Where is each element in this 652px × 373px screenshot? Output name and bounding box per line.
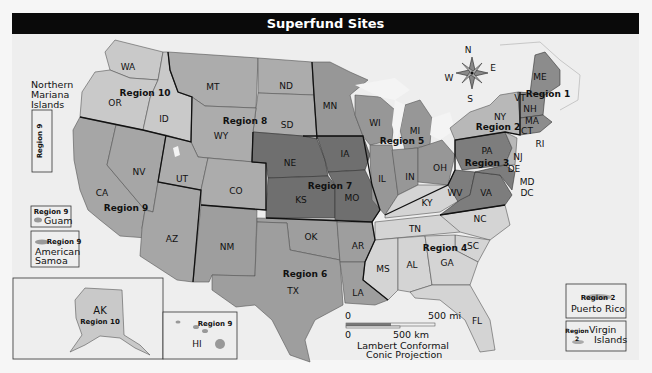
svg-text:IN: IN bbox=[405, 172, 414, 182]
svg-text:Conic Projection: Conic Projection bbox=[366, 349, 442, 360]
svg-text:500 mi: 500 mi bbox=[428, 310, 461, 321]
svg-text:Region 6: Region 6 bbox=[283, 269, 328, 279]
hawaii-inset[interactable]: Region 9 HI bbox=[163, 312, 237, 359]
svg-text:Region 7: Region 7 bbox=[308, 181, 353, 191]
svg-text:KY: KY bbox=[421, 198, 433, 208]
svg-text:ME: ME bbox=[533, 72, 547, 82]
northern-mariana-inset[interactable]: Northern Mariana Islands Region 9 bbox=[31, 79, 73, 172]
us-epa-regions-map: WA OR ID CA NV AZ UT MT WY CO ND SD NM N… bbox=[0, 0, 652, 373]
svg-text:MS: MS bbox=[376, 264, 390, 274]
region-7[interactable] bbox=[252, 132, 380, 222]
svg-text:DE: DE bbox=[508, 164, 521, 174]
svg-text:AK: AK bbox=[93, 305, 107, 316]
svg-text:NM: NM bbox=[220, 242, 235, 252]
svg-text:NE: NE bbox=[284, 158, 297, 168]
svg-text:Samoa: Samoa bbox=[35, 255, 68, 266]
svg-text:DC: DC bbox=[520, 188, 533, 198]
svg-text:HI: HI bbox=[192, 339, 201, 349]
state-co[interactable] bbox=[201, 158, 266, 210]
svg-text:UT: UT bbox=[176, 174, 189, 184]
svg-text:Region 9: Region 9 bbox=[198, 320, 233, 328]
svg-text:CA: CA bbox=[96, 188, 109, 198]
svg-text:IA: IA bbox=[341, 149, 351, 159]
compass-rose: N E S W bbox=[445, 45, 497, 104]
svg-text:SC: SC bbox=[467, 241, 479, 251]
guam-inset[interactable]: Region 9 Guam bbox=[31, 206, 72, 227]
svg-text:Region: Region bbox=[565, 327, 588, 335]
svg-text:Region 2: Region 2 bbox=[476, 122, 521, 132]
svg-text:IL: IL bbox=[378, 174, 386, 184]
virgin-islands-inset[interactable]: Region 2 Virgin Islands bbox=[565, 321, 627, 351]
american-samoa-inset[interactable]: Region 9 American Samoa bbox=[31, 231, 81, 267]
svg-text:Region 9: Region 9 bbox=[36, 124, 44, 159]
svg-text:MN: MN bbox=[323, 101, 338, 111]
svg-text:PA: PA bbox=[481, 146, 493, 156]
puerto-rico-inset[interactable]: Region 2 Puerto Rico bbox=[566, 284, 626, 318]
svg-text:LA: LA bbox=[352, 288, 364, 298]
svg-text:WY: WY bbox=[214, 131, 229, 141]
svg-text:MO: MO bbox=[345, 193, 360, 203]
svg-text:N: N bbox=[465, 45, 472, 55]
alaska-inset[interactable]: AK Region 10 bbox=[13, 278, 163, 359]
svg-text:Islands: Islands bbox=[31, 99, 64, 110]
svg-text:NY: NY bbox=[494, 112, 507, 122]
svg-text:Region 1: Region 1 bbox=[526, 89, 571, 99]
svg-text:OK: OK bbox=[305, 232, 319, 242]
svg-text:NV: NV bbox=[133, 167, 147, 177]
map-title: Superfund Sites bbox=[12, 13, 639, 34]
svg-text:Islands: Islands bbox=[594, 334, 627, 345]
svg-text:NC: NC bbox=[473, 214, 486, 224]
svg-text:Guam: Guam bbox=[44, 215, 72, 226]
svg-text:WV: WV bbox=[447, 188, 463, 198]
svg-text:Region 3: Region 3 bbox=[465, 158, 510, 168]
svg-text:NJ: NJ bbox=[513, 152, 522, 162]
svg-text:VA: VA bbox=[480, 188, 493, 198]
svg-text:CT: CT bbox=[521, 126, 533, 136]
svg-text:2: 2 bbox=[575, 335, 579, 342]
svg-text:MT: MT bbox=[206, 82, 220, 92]
svg-text:S: S bbox=[467, 94, 473, 104]
svg-text:AL: AL bbox=[406, 260, 417, 270]
svg-text:WI: WI bbox=[369, 118, 381, 128]
svg-text:Region 4: Region 4 bbox=[423, 243, 468, 253]
svg-text:ID: ID bbox=[159, 114, 169, 124]
svg-text:Region 10: Region 10 bbox=[80, 318, 120, 326]
svg-text:AZ: AZ bbox=[166, 234, 178, 244]
svg-text:GA: GA bbox=[440, 258, 454, 268]
svg-text:RI: RI bbox=[536, 139, 545, 149]
svg-text:500 km: 500 km bbox=[393, 329, 429, 340]
svg-text:NH: NH bbox=[523, 104, 537, 114]
svg-text:VT: VT bbox=[514, 93, 526, 103]
svg-text:WA: WA bbox=[121, 62, 136, 72]
svg-text:OR: OR bbox=[108, 98, 121, 108]
svg-text:MI: MI bbox=[410, 126, 420, 136]
svg-text:FL: FL bbox=[472, 316, 482, 326]
svg-text:MD: MD bbox=[520, 177, 535, 187]
svg-text:W: W bbox=[445, 73, 454, 83]
svg-text:CO: CO bbox=[229, 186, 242, 196]
svg-text:Puerto Rico: Puerto Rico bbox=[571, 303, 625, 314]
svg-text:TN: TN bbox=[408, 224, 421, 234]
svg-text:KS: KS bbox=[295, 195, 307, 205]
svg-text:Region 5: Region 5 bbox=[380, 136, 425, 146]
svg-text:E: E bbox=[490, 63, 496, 73]
svg-text:AR: AR bbox=[352, 241, 364, 251]
svg-text:TX: TX bbox=[286, 286, 299, 296]
svg-text:Region 10: Region 10 bbox=[120, 88, 171, 98]
svg-text:Region 9: Region 9 bbox=[104, 203, 149, 213]
svg-text:0: 0 bbox=[345, 310, 351, 321]
svg-text:Region 2: Region 2 bbox=[581, 294, 616, 302]
svg-text:Region 8: Region 8 bbox=[223, 116, 268, 126]
svg-text:Region 9: Region 9 bbox=[47, 238, 82, 246]
svg-text:MA: MA bbox=[525, 116, 540, 126]
svg-text:OH: OH bbox=[433, 163, 447, 173]
svg-text:SD: SD bbox=[281, 120, 294, 130]
svg-text:ND: ND bbox=[279, 81, 293, 91]
svg-text:0: 0 bbox=[345, 329, 351, 340]
scale-bar: 0 500 mi 0 500 km Lambert Conformal Coni… bbox=[345, 310, 461, 360]
